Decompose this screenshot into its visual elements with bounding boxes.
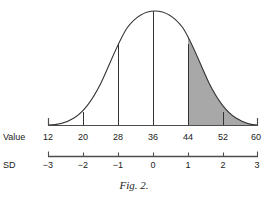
sd-tick-0: −3 <box>33 158 63 172</box>
value-tick-4: 44 <box>173 130 203 144</box>
sd-tick-6: 3 <box>242 158 268 172</box>
figure-container: Value 12 20 28 36 44 52 60 SD −3 −2 −1 0… <box>0 0 268 197</box>
value-tick-3: 36 <box>138 130 168 144</box>
value-tick-0: 12 <box>33 130 63 144</box>
sd-tick-3: 0 <box>138 158 168 172</box>
value-axis-row: Value 12 20 28 36 44 52 60 <box>0 130 268 144</box>
sd-tick-2: −1 <box>103 158 133 172</box>
sd-axis-row: SD −3 −2 −1 0 1 2 3 <box>0 158 268 172</box>
value-tick-2: 28 <box>103 130 133 144</box>
sd-tick-5: 2 <box>208 158 238 172</box>
value-tick-5: 52 <box>208 130 238 144</box>
figure-caption: Fig. 2. <box>0 179 268 191</box>
sd-tick-1: −2 <box>68 158 98 172</box>
value-tick-6: 60 <box>241 130 268 144</box>
sd-tick-4: 1 <box>173 158 203 172</box>
value-axis-label: Value <box>3 130 25 144</box>
value-tick-1: 20 <box>68 130 98 144</box>
sd-axis-label: SD <box>3 158 16 172</box>
normal-distribution-plot <box>0 0 268 130</box>
